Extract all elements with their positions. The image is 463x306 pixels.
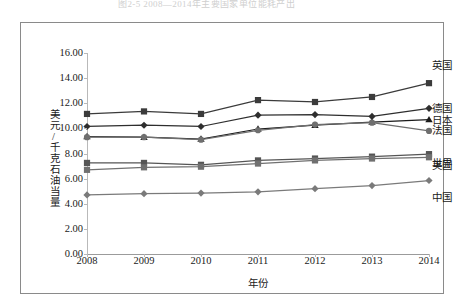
data-point-marker (140, 122, 147, 129)
x-axis-tick-mark (372, 254, 373, 257)
y-axis-tick-mark (84, 78, 87, 79)
x-axis-tick-label: 2012 (305, 256, 326, 267)
data-point-marker (198, 137, 204, 143)
x-axis-title: 年份 (87, 275, 429, 290)
y-axis-tick-mark (84, 204, 87, 205)
x-axis-tick-label: 2008 (77, 256, 98, 267)
cut-off-header-text: 图2-5 2008—2014年主要国家单位能耗产出 (118, 0, 348, 9)
y-axis-tick-mark (84, 179, 87, 180)
series-end-label-美国: 美国 (432, 160, 452, 171)
series-英国 (84, 80, 432, 117)
y-axis-tick-mark (84, 128, 87, 129)
y-axis-tick-label: 4.00 (65, 199, 83, 210)
data-point-marker (141, 134, 147, 140)
series-中国 (83, 177, 432, 199)
y-axis-tick-label: 2.00 (65, 224, 83, 235)
x-axis-tick-mark (144, 254, 145, 257)
series-法国 (84, 120, 432, 143)
data-point-marker (255, 127, 261, 133)
data-point-marker (311, 185, 318, 192)
x-axis-tick-mark (201, 254, 202, 257)
data-point-marker (312, 99, 318, 105)
data-point-marker (255, 160, 261, 166)
data-point-marker (426, 80, 432, 86)
data-point-marker (84, 134, 90, 140)
x-axis-tick-label: 2011 (248, 256, 269, 267)
x-axis-tick-label: 2010 (191, 256, 212, 267)
x-axis-tick-label: 2009 (134, 256, 155, 267)
series-end-label-英国: 英国 (432, 60, 452, 71)
y-axis-title: 美元/千克石油当量 (46, 109, 60, 208)
data-point-marker (369, 155, 375, 161)
data-point-marker (197, 189, 204, 196)
data-point-marker (84, 167, 90, 173)
data-point-marker (198, 111, 204, 117)
data-point-marker (312, 122, 318, 128)
data-point-marker (140, 190, 147, 197)
data-point-marker (84, 111, 90, 117)
y-axis-tick-label: 6.00 (65, 173, 83, 184)
x-axis-tick-label: 2013 (362, 256, 383, 267)
data-point-marker (312, 157, 318, 163)
series-end-label-法国: 法国 (432, 124, 452, 135)
y-axis-tick-label: 8.00 (65, 148, 83, 159)
y-axis-tick-label: 16.00 (59, 48, 83, 59)
x-axis-tick-mark (87, 254, 88, 257)
data-point-marker (141, 108, 147, 114)
series-美国 (84, 154, 432, 173)
data-point-marker (255, 97, 261, 103)
x-axis-tick-mark (429, 254, 430, 257)
series-lines (87, 53, 429, 254)
data-point-marker (425, 177, 432, 184)
y-axis-tick-label: 10.00 (59, 123, 83, 134)
data-point-marker (198, 164, 204, 170)
y-axis-tick-mark (84, 53, 87, 54)
data-point-marker (141, 164, 147, 170)
data-point-marker (83, 191, 90, 198)
y-axis-tick-mark (84, 103, 87, 104)
x-axis-tick-mark (258, 254, 259, 257)
data-point-marker (369, 94, 375, 100)
data-point-marker (311, 111, 318, 118)
data-point-marker (254, 188, 261, 195)
series-end-label-中国: 中国 (432, 191, 452, 202)
plot-area: 0.002.004.006.008.0010.0012.0014.0016.00… (87, 53, 429, 254)
x-axis-tick-label: 2014 (419, 256, 440, 267)
y-axis-tick-label: 12.00 (59, 98, 83, 109)
x-axis-tick-mark (315, 254, 316, 257)
y-axis-tick-mark (84, 154, 87, 155)
series-end-label-德国: 德国 (432, 103, 452, 114)
chart-frame: 美元/千克石油当量 0.002.004.006.008.0010.0012.00… (20, 22, 444, 294)
data-point-marker (197, 123, 204, 130)
data-point-marker (368, 182, 375, 189)
y-axis-tick-label: 14.00 (59, 73, 83, 84)
data-point-marker (369, 120, 375, 126)
data-point-marker (84, 160, 90, 166)
data-point-marker (254, 112, 261, 119)
y-axis-tick-mark (84, 229, 87, 230)
